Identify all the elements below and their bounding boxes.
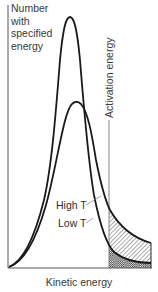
activation-energy-label: Activation energy (103, 37, 115, 118)
high-t-label: High T (56, 199, 87, 211)
high-t-leader-line (86, 196, 101, 205)
low-t-leader-line (86, 218, 93, 223)
low-t-label: Low T (58, 217, 86, 229)
low-t-curve (9, 17, 151, 267)
y-axis-label-line-1: Number (11, 2, 52, 15)
y-axis-label-line-4: energy (11, 40, 52, 53)
x-axis-label: Kinetic energy (0, 276, 158, 288)
y-axis-label-line-3: specified (11, 27, 52, 40)
y-axis-label: Number with specified energy (11, 2, 52, 52)
y-axis-label-line-2: with (11, 15, 52, 28)
